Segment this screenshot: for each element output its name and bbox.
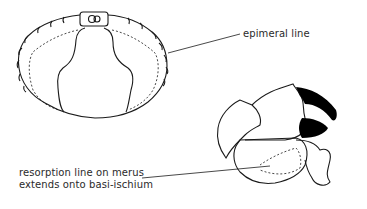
resorption-label-line-2: extends onto basi-ischium <box>19 179 153 191</box>
epimeral-line <box>29 30 158 110</box>
diagram-canvas: epimeral line resorption line on merus e… <box>0 0 367 209</box>
carapace-outline <box>18 15 167 118</box>
epimeral-leader <box>168 34 240 53</box>
epimeral-line-label: epimeral line <box>243 28 310 40</box>
sternum-outline <box>58 28 133 112</box>
claw-lower-finger <box>299 118 328 138</box>
resorption-leader <box>142 166 270 178</box>
resorption-line <box>260 148 301 174</box>
carapace-drawing <box>17 12 168 118</box>
claw-upper-finger <box>296 87 337 120</box>
resorption-line-label: resorption line on merus extends onto ba… <box>19 167 153 191</box>
resorption-label-line-1: resorption line on merus <box>19 167 153 179</box>
